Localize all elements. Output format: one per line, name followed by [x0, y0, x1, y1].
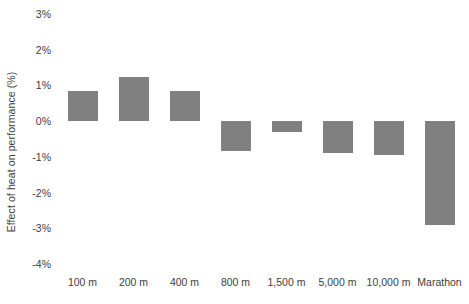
- y-axis-tick-label: -1%: [32, 151, 51, 163]
- x-axis-tick-label: 800 m: [221, 276, 250, 288]
- bar-chart: Effect of heat on performance (%) 3%2%1%…: [0, 0, 469, 304]
- x-axis-tick-label: 100 m: [68, 276, 97, 288]
- bar-group: 400 m: [159, 14, 210, 264]
- y-axis-title: Effect of heat on performance (%): [0, 0, 22, 304]
- y-axis-tick-label: 0%: [36, 115, 51, 127]
- bar-group: 100 m: [57, 14, 108, 264]
- x-axis-tick-label: 1,500 m: [268, 276, 306, 288]
- bar-group: 1,500 m: [261, 14, 312, 264]
- bar-group: 5,000 m: [312, 14, 363, 264]
- y-axis-tick-label: -4%: [32, 258, 51, 270]
- y-axis-tick-label: 2%: [36, 44, 51, 56]
- bar-group: 200 m: [108, 14, 159, 264]
- bar[interactable]: [425, 121, 455, 225]
- x-axis-tick-label: Marathon: [417, 276, 461, 288]
- y-axis-tick-label: -2%: [32, 187, 51, 199]
- bar[interactable]: [170, 91, 200, 121]
- x-axis-tick-label: 200 m: [119, 276, 148, 288]
- bar-group: Marathon: [414, 14, 465, 264]
- bar-group: 10,000 m: [363, 14, 414, 264]
- x-axis-tick-label: 10,000 m: [367, 276, 411, 288]
- bar[interactable]: [119, 77, 149, 122]
- plot-area: 3%2%1%0%-1%-2%-3%-4% 100 m200 m400 m800 …: [57, 14, 465, 264]
- bar[interactable]: [68, 91, 98, 121]
- y-axis-tick-label: 3%: [36, 8, 51, 20]
- bar[interactable]: [323, 121, 353, 153]
- bars-layer: 100 m200 m400 m800 m1,500 m5,000 m10,000…: [57, 14, 465, 264]
- y-axis-tick-label: -3%: [32, 222, 51, 234]
- bar[interactable]: [221, 121, 251, 151]
- bar-group: 800 m: [210, 14, 261, 264]
- y-axis-tick-label: 1%: [36, 79, 51, 91]
- bar[interactable]: [374, 121, 404, 155]
- bar[interactable]: [272, 121, 302, 132]
- x-axis-tick-label: 5,000 m: [319, 276, 357, 288]
- x-axis-tick-label: 400 m: [170, 276, 199, 288]
